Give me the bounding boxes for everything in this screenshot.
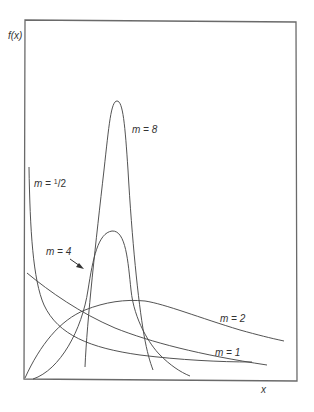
label-m-4-text: m = 4 (46, 246, 72, 257)
label-m-1-text: m = 1 (215, 347, 240, 358)
curve-m-half (29, 167, 252, 362)
label-m-half-prefix: m = (34, 178, 54, 189)
label-m-half: m = 1/2 (34, 178, 66, 189)
label-m-8: m = 8 (132, 124, 158, 135)
chart: f(x) x m = 8 m = 1/2 m = 4 m = 2 m = 1 (0, 0, 314, 412)
label-m-8-text: m = 8 (132, 124, 158, 135)
label-m-half-den: /2 (58, 178, 67, 189)
label-m-4: m = 4 (46, 246, 72, 257)
label-m-2-text: m = 2 (220, 313, 246, 324)
label-m-1: m = 1 (215, 347, 240, 358)
x-axis-label: x (260, 384, 267, 395)
y-axis-label: f(x) (8, 30, 22, 41)
label-m-2: m = 2 (220, 313, 246, 324)
plot-frame (24, 20, 297, 381)
